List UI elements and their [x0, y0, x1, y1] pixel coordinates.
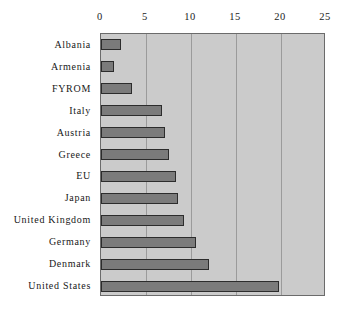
bar-row	[101, 34, 324, 55]
bar-albania	[101, 39, 121, 50]
bar-greece	[101, 149, 169, 160]
category-label-united-states: United States	[28, 280, 91, 291]
bar-austria	[101, 127, 165, 138]
x-tick-label-10: 10	[184, 10, 196, 23]
bar-armenia	[101, 61, 114, 72]
category-label-japan: Japan	[65, 192, 91, 203]
category-axis-labels: AlbaniaArmeniaFYROMItalyAustriaGreeceEUJ…	[0, 33, 96, 296]
x-tick-label-15: 15	[229, 10, 241, 23]
bar-chart: 0510152025 AlbaniaArmeniaFYROMItalyAustr…	[0, 0, 346, 312]
bar-fyrom	[101, 83, 132, 94]
category-label-germany: Germany	[49, 236, 91, 247]
bar-united-kingdom	[101, 215, 184, 226]
bar-row	[101, 56, 324, 77]
category-label-italy: Italy	[69, 104, 91, 115]
x-tick-label-20: 20	[274, 10, 286, 23]
bar-denmark	[101, 259, 209, 270]
bar-italy	[101, 105, 162, 116]
x-axis-tick-labels: 0510152025	[100, 10, 325, 26]
category-label-united-kingdom: United Kingdom	[14, 214, 91, 225]
category-label-albania: Albania	[54, 38, 91, 49]
category-label-denmark: Denmark	[49, 258, 91, 269]
bar-row	[101, 78, 324, 99]
bar-japan	[101, 193, 178, 204]
category-label-austria: Austria	[57, 126, 91, 137]
category-label-greece: Greece	[58, 148, 91, 159]
category-label-fyrom: FYROM	[52, 82, 91, 93]
x-tick-label-25: 25	[319, 10, 331, 23]
bar-germany	[101, 237, 196, 248]
category-label-eu: EU	[76, 170, 91, 181]
plot-area	[100, 33, 325, 296]
bar-united-states	[101, 281, 279, 292]
category-label-armenia: Armenia	[51, 60, 91, 71]
bar-eu	[101, 171, 176, 182]
x-tick-label-0: 0	[97, 10, 103, 23]
x-tick-label-5: 5	[142, 10, 148, 23]
